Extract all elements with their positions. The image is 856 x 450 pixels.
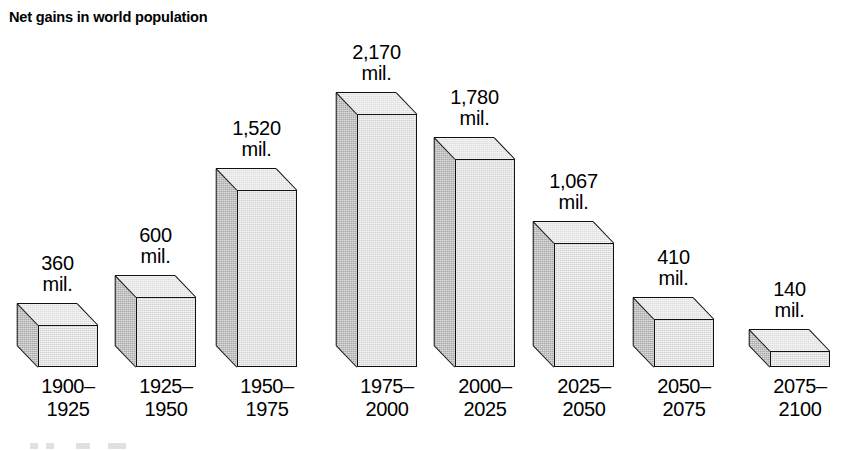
bar-outline-edge	[748, 330, 749, 346]
bar-side-face	[336, 92, 359, 367]
bar-category-line-1: 1950–	[212, 375, 322, 398]
bar-value-unit: mil.	[10, 274, 106, 295]
bar-front-face	[237, 190, 297, 367]
bar-category-label: 1925–1950	[111, 375, 221, 421]
bar-3d-box[interactable]	[633, 297, 714, 367]
bar-outline-edge	[216, 168, 276, 169]
bar-value-unit: mil.	[108, 246, 204, 267]
bar-value-label: 1,520mil.	[209, 118, 305, 160]
bar-outline-edge	[16, 304, 17, 346]
bar-3d-box[interactable]	[533, 221, 614, 367]
bar-category-label: 2075–2100	[745, 375, 855, 421]
bar-category-line-2: 1950	[111, 398, 221, 421]
bar-category-label: 1900–1925	[13, 375, 123, 421]
bar-3d-box[interactable]	[749, 329, 830, 367]
bar-value-number: 1,780	[427, 87, 523, 108]
bar-value-unit: mil.	[742, 300, 838, 321]
source-caption-artifact	[30, 443, 180, 449]
bar-side-face	[216, 168, 239, 367]
bar-category-line-1: 1900–	[13, 375, 123, 398]
bar-category-line-1: 2050–	[629, 375, 739, 398]
bar-group[interactable]: 1,520mil.1950–1975	[0, 0, 856, 450]
bar-value-label: 2,170mil.	[329, 42, 425, 84]
bar-3d-box[interactable]	[216, 168, 297, 367]
bar-outline-edge	[336, 92, 396, 93]
bar-3d-box[interactable]	[17, 303, 98, 367]
bar-group[interactable]: 1,067mil.2025–2050	[0, 0, 856, 450]
bar-category-line-1: 2000–	[430, 375, 540, 398]
bar-group[interactable]: 1,780mil.2000–2025	[0, 0, 856, 450]
bar-outline-edge	[17, 303, 77, 304]
bar-value-label: 1,780mil.	[427, 87, 523, 129]
bar-value-number: 360	[10, 253, 106, 274]
bar-value-unit: mil.	[526, 192, 622, 213]
bar-front-face	[38, 325, 98, 367]
bar-front-face	[455, 159, 515, 367]
bar-outline-edge	[114, 276, 115, 346]
bar-value-unit: mil.	[329, 63, 425, 84]
bar-category-label: 1950–1975	[212, 375, 322, 421]
bar-category-line-2: 2025	[430, 398, 540, 421]
bar-group[interactable]: 360mil.1900–1925	[0, 0, 856, 450]
bar-value-label: 140mil.	[742, 279, 838, 321]
bar-group[interactable]: 140mil.2075–2100	[0, 0, 856, 450]
bar-category-line-2: 1925	[13, 398, 123, 421]
bar-outline-edge	[533, 221, 593, 222]
bar-category-label: 1975–2000	[332, 375, 442, 421]
bar-group[interactable]: 410mil.2050–2075	[0, 0, 856, 450]
bar-category-line-1: 2075–	[745, 375, 855, 398]
bar-3d-box[interactable]	[115, 275, 196, 367]
bar-category-line-2: 2050	[529, 398, 639, 421]
bar-value-label: 410mil.	[626, 247, 722, 289]
bar-outline-edge	[532, 222, 533, 346]
bar-value-number: 410	[626, 247, 722, 268]
bar-value-unit: mil.	[626, 268, 722, 289]
bar-category-line-2: 2100	[745, 398, 855, 421]
bar-value-label: 360mil.	[10, 253, 106, 295]
bar-outline-edge	[632, 298, 633, 346]
bar-value-number: 1,520	[209, 118, 305, 139]
bar-front-face	[554, 243, 614, 367]
bar-front-face	[357, 114, 417, 367]
bar-front-face	[770, 351, 830, 367]
bar-side-face	[434, 137, 457, 367]
bar-outline-edge	[433, 138, 434, 346]
bar-category-label: 2000–2025	[430, 375, 540, 421]
bar-outline-edge	[434, 137, 494, 138]
bar-value-number: 140	[742, 279, 838, 300]
bar-category-label: 2050–2075	[629, 375, 739, 421]
bar-outline-edge	[335, 93, 336, 346]
bar-front-face	[654, 319, 714, 367]
bar-group[interactable]: 2,170mil.1975–2000	[0, 0, 856, 450]
bar-3d-box[interactable]	[434, 137, 515, 367]
bar-value-label: 600mil.	[108, 225, 204, 267]
bar-group[interactable]: 600mil.1925–1950	[0, 0, 856, 450]
bar-front-face	[136, 297, 196, 367]
bar-category-line-1: 1925–	[111, 375, 221, 398]
bar-3d-box[interactable]	[336, 92, 417, 367]
bar-category-label: 2025–2050	[529, 375, 639, 421]
bar-category-line-2: 1975	[212, 398, 322, 421]
bar-outline-edge	[115, 275, 175, 276]
bar-outline-edge	[749, 329, 809, 330]
bar-outline-edge	[215, 169, 216, 346]
bar-value-unit: mil.	[427, 108, 523, 129]
bar-outline-edge	[633, 297, 693, 298]
bar-category-line-1: 2025–	[529, 375, 639, 398]
bar-category-line-2: 2075	[629, 398, 739, 421]
bar-value-number: 1,067	[526, 171, 622, 192]
bar-category-line-1: 1975–	[332, 375, 442, 398]
bar-value-label: 1,067mil.	[526, 171, 622, 213]
bar-value-number: 2,170	[329, 42, 425, 63]
bar-value-number: 600	[108, 225, 204, 246]
plot-area: 360mil.1900–1925600mil.1925–19501,520mil…	[0, 0, 856, 450]
bar-value-unit: mil.	[209, 139, 305, 160]
bar-category-line-2: 2000	[332, 398, 442, 421]
chart-root: Net gains in world population 360mil.190…	[0, 0, 856, 450]
